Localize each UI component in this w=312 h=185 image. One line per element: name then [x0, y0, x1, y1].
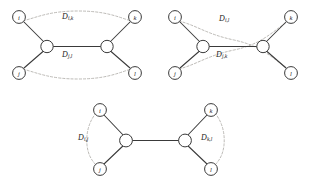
curve-k-l — [214, 113, 224, 166]
edge-l-to-right-node — [186, 144, 207, 164]
distance-label-lower: Dj,k — [216, 50, 227, 59]
internal-node-left — [41, 40, 53, 52]
internal-node-right — [101, 40, 113, 52]
distance-label-right: Dk,l — [201, 133, 212, 142]
curve-j-k — [179, 22, 287, 69]
distance-subscript: i,l — [225, 17, 230, 23]
distance-label-lower: Dj,l — [62, 50, 72, 59]
distance-subscript: j,k — [222, 53, 227, 59]
leaf-label-j: j — [173, 70, 176, 77]
panel-top-right-graphic: i j k l — [156, 0, 312, 93]
quartet-distance-figure: i j k l Di,k Dj,l — [0, 0, 312, 185]
panel-top-left: i j k l Di,k Dj,l — [0, 0, 156, 93]
internal-node-left — [197, 40, 209, 52]
edge-j-to-left-node — [104, 144, 125, 164]
edge-i-to-left-node — [104, 115, 125, 137]
panel-top-right: i j k l Di,l Dj,k — [156, 0, 312, 93]
distance-label-upper: Di,l — [219, 14, 229, 23]
curve-i-k — [23, 11, 131, 21]
curve-i-l — [179, 21, 287, 68]
leaf-label-i: i — [18, 14, 20, 21]
leaf-label-j: j — [17, 70, 20, 77]
panel-bottom-center: i j k l Di,j Dk,l — [78, 95, 234, 185]
distance-label-upper: Di,k — [62, 12, 73, 21]
internal-node-left — [120, 134, 133, 147]
leaf-label-l: l — [134, 70, 136, 77]
leaf-label-l: l — [290, 70, 292, 77]
distance-subscript: j,l — [68, 53, 73, 59]
leaf-label-i: i — [99, 107, 101, 114]
leaf-label-i: i — [174, 14, 176, 21]
distance-label-left: Di,j — [78, 133, 88, 142]
internal-node-right — [179, 134, 192, 147]
internal-node-right — [257, 40, 269, 52]
panel-top-left-graphic: i j k l — [0, 0, 156, 93]
leaf-label-j: j — [98, 166, 101, 173]
distance-subscript: i,k — [68, 15, 73, 21]
distance-subscript: k,l — [207, 136, 212, 142]
curve-j-l — [23, 69, 131, 79]
distance-subscript: i,j — [84, 136, 89, 142]
leaf-label-l: l — [210, 166, 212, 173]
